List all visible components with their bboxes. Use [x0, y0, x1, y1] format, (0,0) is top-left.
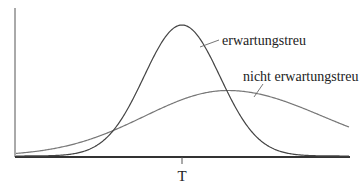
label-nicht-erwartungstreu: nicht erwartungstreu [243, 69, 358, 84]
label-erwartungstreu: erwartungstreu [222, 33, 306, 48]
estimator-distribution-chart: T erwartungstreu nicht erwartungstreu [0, 0, 364, 196]
x-tick-label-T: T [177, 168, 186, 184]
curve-nicht-erwartungstreu [16, 91, 349, 154]
